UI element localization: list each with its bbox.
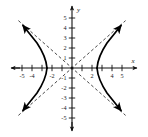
x-tick-label: -2 xyxy=(49,72,54,79)
hyperbola-left-branch-lower xyxy=(23,68,47,111)
y-tick-label: 2 xyxy=(63,44,66,51)
coordinate-plane-svg: -5 -4 -2 2 4 5 5 4 3 2 1 -1 -2 -3 -4 -5 … xyxy=(0,0,148,137)
y-tick-label: -1 xyxy=(61,74,66,81)
x-tick-label: 2 xyxy=(90,72,93,79)
axes-group xyxy=(11,6,137,131)
hyperbola-left-branch-upper xyxy=(23,26,47,69)
x-tick-label: -5 xyxy=(19,72,24,79)
x-tick-label: -4 xyxy=(29,72,34,79)
y-tick-label: -5 xyxy=(61,114,66,121)
x-axis-label: x xyxy=(130,57,135,65)
hyperbola-right-branch-upper xyxy=(97,26,121,69)
origin-point xyxy=(71,67,74,70)
y-tick-label: -3 xyxy=(61,94,66,101)
y-tick-label: 1 xyxy=(63,54,66,61)
y-tick-label: 4 xyxy=(63,24,66,31)
y-tick-label: 5 xyxy=(63,14,66,21)
y-axis-label: y xyxy=(76,6,81,14)
hyperbola-graph-figure: -5 -4 -2 2 4 5 5 4 3 2 1 -1 -2 -3 -4 -5 … xyxy=(0,0,148,137)
x-tick-label: 4 xyxy=(110,72,113,79)
x-tick-label: 5 xyxy=(120,72,123,79)
y-tick-label: -4 xyxy=(61,104,66,111)
y-tick-label: 3 xyxy=(63,34,66,41)
y-tick-label: -2 xyxy=(61,84,66,91)
hyperbola-right-branch-lower xyxy=(97,68,121,111)
